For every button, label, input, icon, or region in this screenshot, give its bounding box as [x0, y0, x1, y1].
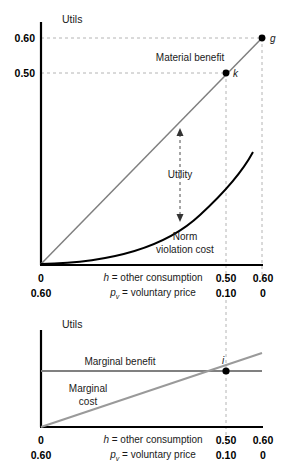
point-g: [259, 35, 266, 42]
bottom-panel: Utils Marginal benefit Marginal cost i h…: [31, 300, 274, 462]
marginal-cost-label-line1: Marginal: [69, 383, 107, 394]
top-xtick-0: 0: [38, 272, 44, 284]
utility-arrow-down-icon: [177, 214, 184, 222]
marginal-cost-label-line2: cost: [79, 396, 98, 407]
norm-violation-cost-label-line1: Norm: [173, 231, 197, 242]
top-xtick-060: 0.60: [253, 272, 274, 284]
point-k-label: k: [233, 68, 239, 79]
top-xaxis-row1-rest: = other consumption: [109, 272, 203, 283]
top-xaxis-row2-rest: = voluntary price: [119, 287, 196, 298]
top-xtick-050: 0.50: [216, 272, 237, 284]
norm-violation-cost-label-line2: violation cost: [156, 244, 214, 255]
bottom-xaxis-row1-rest: = other consumption: [109, 434, 203, 445]
bottom-xtick-0: 0: [38, 434, 44, 446]
top-xtick2-010: 0.10: [216, 287, 237, 299]
bottom-xtick2-010: 0.10: [216, 449, 237, 461]
figure-svg: Utils 0.60 0.50 Material benefit Utility…: [0, 0, 290, 476]
utility-arrow-up-icon: [177, 128, 184, 136]
top-y-axis-title: Utils: [62, 13, 82, 25]
top-xaxis-row2-label: pv = voluntary price: [109, 287, 196, 300]
point-i: [222, 367, 229, 374]
bottom-y-axis-title: Utils: [62, 318, 82, 330]
bottom-xaxis-row2-label: pv = voluntary price: [109, 449, 196, 462]
top-xtick2-0: 0: [260, 287, 266, 299]
material-benefit-label: Material benefit: [156, 52, 225, 63]
bottom-xtick-050: 0.50: [216, 434, 237, 446]
top-xtick2-060: 0.60: [31, 287, 52, 299]
bottom-xaxis-row2-rest: = voluntary price: [119, 449, 196, 460]
economics-figure: Utils 0.60 0.50 Material benefit Utility…: [0, 0, 290, 476]
bottom-xaxis-row1-label: h = other consumption: [103, 434, 202, 445]
point-g-label: g: [270, 33, 276, 44]
utility-label: Utility: [168, 169, 192, 180]
bottom-xtick2-0: 0: [260, 449, 266, 461]
norm-violation-cost-curve: [41, 152, 253, 264]
point-i-label: i: [222, 355, 225, 366]
point-k: [223, 70, 230, 77]
top-panel: Utils 0.60 0.50 Material benefit Utility…: [15, 13, 276, 300]
marginal-benefit-label: Marginal benefit: [84, 356, 155, 367]
top-xaxis-row1-label: h = other consumption: [103, 272, 202, 283]
top-ytick-060: 0.60: [15, 32, 36, 44]
bottom-xtick2-060: 0.60: [31, 449, 52, 461]
bottom-xtick-060: 0.60: [253, 434, 274, 446]
top-ytick-050: 0.50: [15, 67, 36, 79]
